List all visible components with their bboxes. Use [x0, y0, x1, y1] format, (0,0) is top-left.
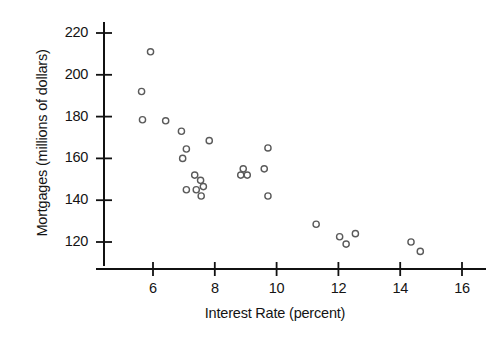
data-point [138, 88, 144, 94]
data-point [183, 146, 189, 152]
data-point [313, 221, 319, 227]
data-point [193, 187, 199, 193]
data-point [147, 49, 153, 55]
data-point [163, 118, 169, 124]
axes [96, 22, 486, 276]
data-point [183, 187, 189, 193]
data-point [244, 172, 250, 178]
data-point [178, 128, 184, 134]
data-point [352, 231, 358, 237]
data-point [139, 117, 145, 123]
data-point [343, 241, 349, 247]
scatter-chart: Mortgages (millions of dollars) 12014016… [0, 0, 501, 342]
data-points [138, 49, 423, 255]
data-point [337, 234, 343, 240]
data-point [238, 172, 244, 178]
data-point [198, 193, 204, 199]
data-point [408, 239, 414, 245]
data-point [200, 184, 206, 190]
data-point [197, 177, 203, 183]
data-point [417, 248, 423, 254]
data-point [240, 166, 246, 172]
data-point [192, 172, 198, 178]
x-axis-title: Interest Rate (percent) [120, 305, 430, 321]
data-point [180, 155, 186, 161]
data-point [265, 145, 271, 151]
data-point [261, 166, 267, 172]
plot-area [0, 0, 501, 342]
data-point [206, 138, 212, 144]
data-point [265, 193, 271, 199]
